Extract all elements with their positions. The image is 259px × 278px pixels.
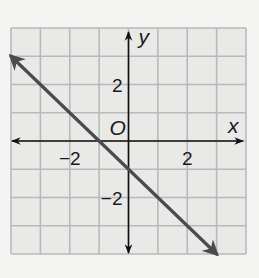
x-tick-label: −2	[59, 148, 81, 169]
y-axis-label: y	[137, 25, 151, 48]
y-tick-label: −2	[101, 188, 123, 209]
coordinate-plane: −222−2 x y O	[0, 0, 259, 278]
x-axis-label: x	[227, 114, 240, 137]
x-tick-label: 2	[182, 148, 193, 169]
origin-label: O	[110, 116, 126, 139]
y-tick-label: 2	[112, 75, 123, 96]
